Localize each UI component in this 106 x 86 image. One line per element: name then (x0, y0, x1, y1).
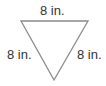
top-side-label: 8 in. (40, 4, 65, 17)
left-side-label: 8 in. (7, 48, 32, 61)
right-side-label: 8 in. (77, 48, 102, 61)
